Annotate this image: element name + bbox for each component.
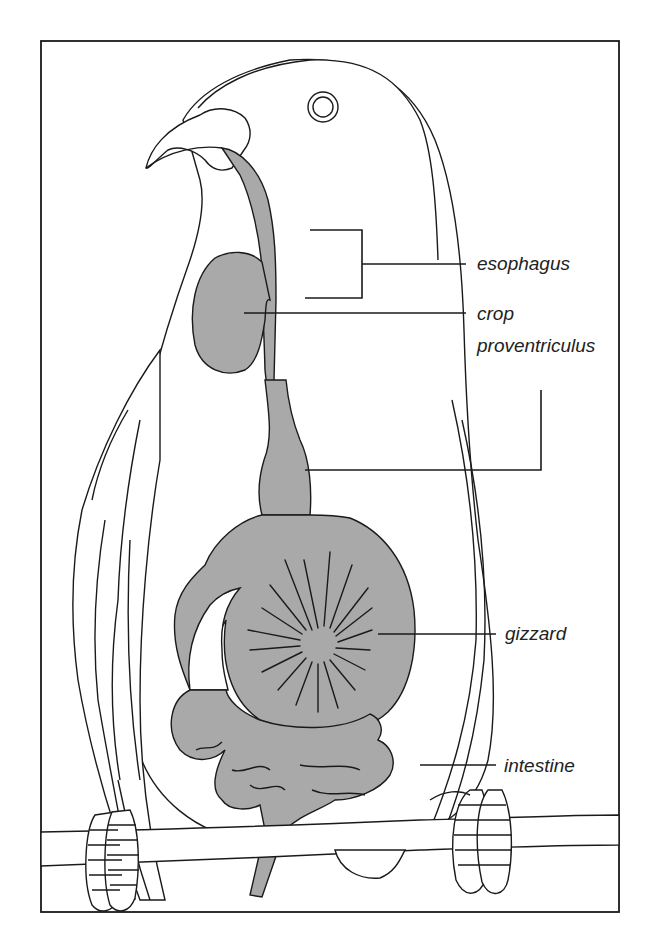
label-crop: crop [477, 304, 514, 323]
bird-digestive-diagram: esophagus crop proventriculus gizzard in… [0, 0, 661, 952]
label-gizzard: gizzard [505, 624, 566, 643]
right-talon-under-perch [335, 850, 405, 878]
left-foot [86, 810, 139, 911]
label-esophagus: esophagus [477, 254, 570, 273]
diagram-artwork [0, 0, 661, 952]
eye-inner [313, 97, 333, 117]
label-proventriculus: proventriculus [477, 336, 595, 355]
label-intestine: intestine [504, 756, 575, 775]
